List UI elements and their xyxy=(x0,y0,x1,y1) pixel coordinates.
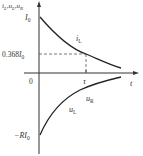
tick-label-neg-RI0: −RI0 xyxy=(14,131,30,141)
tick-label-tau: τ xyxy=(83,77,87,86)
y-axis-label: iL,uL,uR xyxy=(2,2,23,11)
x-axis-arrow-icon xyxy=(133,71,139,75)
curve-label-uL: uL xyxy=(69,105,77,115)
curve-label-uR: uR xyxy=(86,94,94,104)
curve-uL-uR xyxy=(40,77,121,135)
x-axis-label: t xyxy=(130,79,133,88)
tick-label-0368I0: 0.368I0 xyxy=(2,50,24,60)
curve-label-iL: iL xyxy=(76,34,82,44)
chart-canvas: iL,uL,uR I0 0.368I0 0 τ t iL uR uL −RI0 xyxy=(0,0,143,156)
y-axis-arrow-icon xyxy=(37,1,41,7)
origin-label: 0 xyxy=(29,77,33,86)
tick-label-I0: I0 xyxy=(24,13,31,23)
